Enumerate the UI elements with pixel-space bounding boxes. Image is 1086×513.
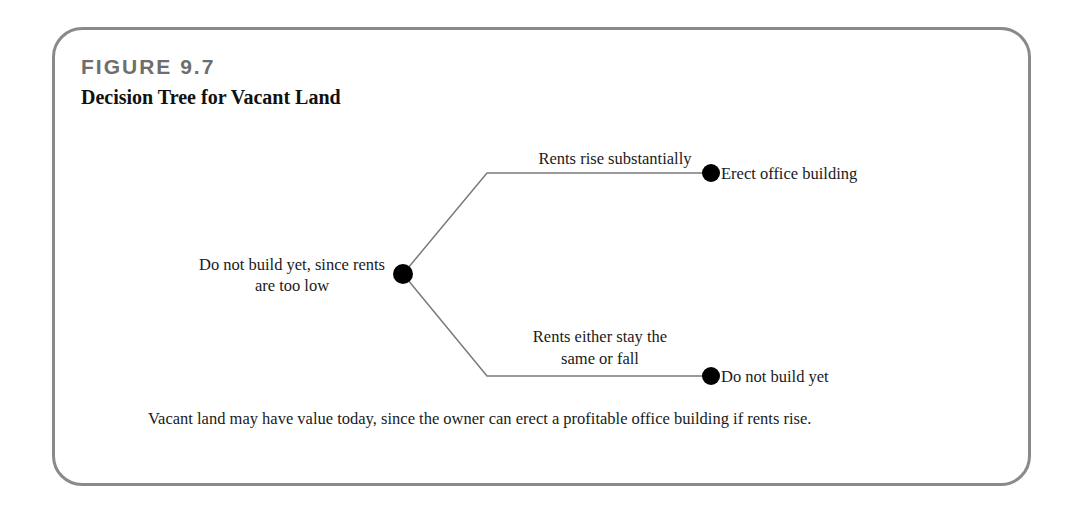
- root-label: Do not build yet, since rents are too lo…: [190, 254, 394, 296]
- root-node: [393, 264, 413, 284]
- outcome-label-up: Erect office building: [721, 164, 857, 184]
- outcome-node-down: [702, 367, 720, 385]
- figure-caption: Vacant land may have value today, since …: [148, 408, 888, 430]
- branch-line-up: [403, 173, 711, 274]
- decision-tree-lines: [0, 0, 1086, 513]
- outcome-node-up: [702, 164, 720, 182]
- branch-condition-down: Rents either stay the same or fall: [520, 326, 680, 370]
- outcome-label-down: Do not build yet: [721, 367, 829, 387]
- branch-condition-up: Rents rise substantially: [530, 149, 700, 169]
